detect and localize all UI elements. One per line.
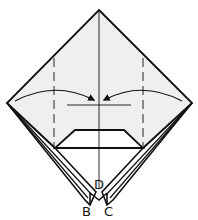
label-c: C — [104, 205, 113, 218]
label-d: D — [94, 178, 104, 191]
label-b: B — [82, 205, 91, 218]
square-diamond-paper — [7, 10, 192, 148]
